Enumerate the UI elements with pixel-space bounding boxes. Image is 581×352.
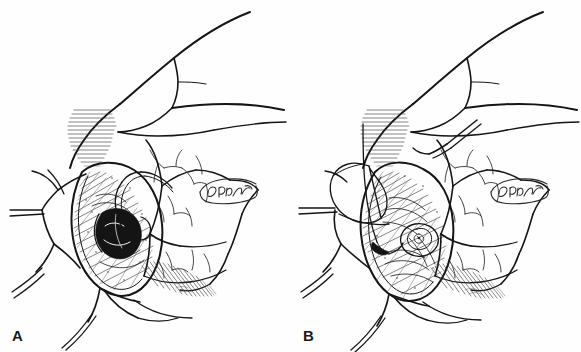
left-retractor-tines-b <box>299 171 369 298</box>
right-tissue-flaps-b <box>435 140 521 283</box>
closure-folds-b <box>383 198 435 283</box>
lower-retractor-tines-b <box>351 294 467 352</box>
upper-tubular-structure-a <box>70 12 286 168</box>
panel-b: B <box>291 0 581 352</box>
figure-two-panel-surgical-illustration: A <box>0 0 581 352</box>
operative-field-b <box>361 163 454 301</box>
right-tissue-flaps-a <box>144 140 230 283</box>
panel-b-label: B <box>303 328 314 343</box>
upper-hatch-shadow-b <box>361 110 409 166</box>
upper-hatch-shadow-a <box>68 110 116 166</box>
panel-a: A <box>0 0 290 352</box>
panel-a-label: A <box>12 328 23 343</box>
upper-tubular-structure-b <box>363 12 579 168</box>
lower-retractor-tines-a <box>62 288 178 350</box>
panel-a-drawing <box>0 0 290 352</box>
panel-b-drawing <box>291 0 581 352</box>
